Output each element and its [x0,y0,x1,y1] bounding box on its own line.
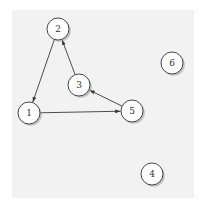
node-label: 5 [129,106,135,116]
diagram-background [12,10,194,198]
node-label: 1 [26,108,32,118]
node-label: 3 [76,80,82,90]
graph-canvas: 123456 [0,0,201,209]
node-label: 2 [55,24,61,34]
node-label: 4 [149,169,155,179]
node-label: 6 [169,58,175,68]
